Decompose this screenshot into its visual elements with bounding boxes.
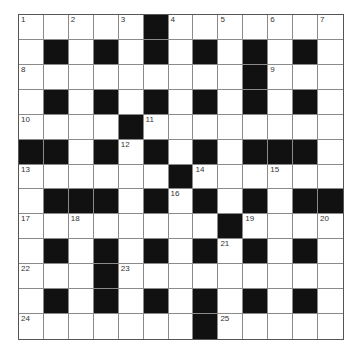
answer-cell[interactable]: 3 [119, 15, 144, 40]
answer-cell[interactable] [218, 90, 243, 115]
answer-cell[interactable] [268, 289, 293, 314]
answer-cell[interactable] [119, 289, 144, 314]
answer-cell[interactable] [169, 115, 194, 140]
answer-cell[interactable]: 7 [318, 15, 343, 40]
answer-cell[interactable]: 18 [69, 214, 94, 239]
answer-cell[interactable] [218, 140, 243, 165]
answer-cell[interactable] [169, 289, 194, 314]
answer-cell[interactable]: 16 [169, 189, 194, 214]
answer-cell[interactable] [69, 264, 94, 289]
answer-cell[interactable] [268, 115, 293, 140]
answer-cell[interactable] [69, 40, 94, 65]
answer-cell[interactable] [293, 115, 318, 140]
answer-cell[interactable]: 12 [119, 140, 144, 165]
answer-cell[interactable] [243, 165, 268, 190]
answer-cell[interactable] [268, 189, 293, 214]
answer-cell[interactable] [69, 65, 94, 90]
answer-cell[interactable]: 20 [318, 214, 343, 239]
answer-cell[interactable]: 14 [193, 165, 218, 190]
answer-cell[interactable] [94, 115, 119, 140]
answer-cell[interactable]: 8 [19, 65, 44, 90]
answer-cell[interactable] [318, 65, 343, 90]
answer-cell[interactable] [318, 40, 343, 65]
answer-cell[interactable] [144, 165, 169, 190]
answer-cell[interactable] [119, 314, 144, 339]
answer-cell[interactable] [268, 90, 293, 115]
answer-cell[interactable]: 11 [144, 115, 169, 140]
answer-cell[interactable] [218, 264, 243, 289]
answer-cell[interactable]: 5 [218, 15, 243, 40]
answer-cell[interactable] [44, 165, 69, 190]
answer-cell[interactable] [318, 314, 343, 339]
answer-cell[interactable] [243, 15, 268, 40]
answer-cell[interactable] [44, 115, 69, 140]
answer-cell[interactable] [268, 214, 293, 239]
answer-cell[interactable] [19, 90, 44, 115]
answer-cell[interactable]: 24 [19, 314, 44, 339]
answer-cell[interactable] [119, 214, 144, 239]
answer-cell[interactable] [293, 314, 318, 339]
answer-cell[interactable] [169, 214, 194, 239]
answer-cell[interactable] [44, 264, 69, 289]
answer-cell[interactable] [218, 65, 243, 90]
answer-cell[interactable]: 6 [268, 15, 293, 40]
answer-cell[interactable] [169, 239, 194, 264]
answer-cell[interactable] [69, 289, 94, 314]
answer-cell[interactable] [318, 289, 343, 314]
answer-cell[interactable]: 17 [19, 214, 44, 239]
answer-cell[interactable] [169, 140, 194, 165]
answer-cell[interactable] [293, 165, 318, 190]
answer-cell[interactable] [69, 90, 94, 115]
answer-cell[interactable] [69, 314, 94, 339]
answer-cell[interactable] [94, 15, 119, 40]
answer-cell[interactable] [144, 264, 169, 289]
answer-cell[interactable] [243, 115, 268, 140]
answer-cell[interactable] [169, 40, 194, 65]
answer-cell[interactable] [69, 115, 94, 140]
answer-cell[interactable] [318, 115, 343, 140]
answer-cell[interactable]: 15 [268, 165, 293, 190]
answer-cell[interactable] [193, 15, 218, 40]
answer-cell[interactable] [144, 214, 169, 239]
answer-cell[interactable] [19, 189, 44, 214]
answer-cell[interactable] [119, 90, 144, 115]
answer-cell[interactable] [293, 65, 318, 90]
answer-cell[interactable] [69, 239, 94, 264]
answer-cell[interactable] [218, 115, 243, 140]
answer-cell[interactable] [44, 65, 69, 90]
answer-cell[interactable] [94, 214, 119, 239]
answer-cell[interactable] [169, 65, 194, 90]
answer-cell[interactable]: 23 [119, 264, 144, 289]
answer-cell[interactable] [243, 264, 268, 289]
answer-cell[interactable]: 4 [169, 15, 194, 40]
answer-cell[interactable] [169, 90, 194, 115]
answer-cell[interactable] [318, 264, 343, 289]
answer-cell[interactable] [318, 239, 343, 264]
answer-cell[interactable] [193, 115, 218, 140]
answer-cell[interactable] [293, 214, 318, 239]
answer-cell[interactable] [169, 264, 194, 289]
answer-cell[interactable]: 22 [19, 264, 44, 289]
answer-cell[interactable]: 2 [69, 15, 94, 40]
answer-cell[interactable] [69, 140, 94, 165]
answer-cell[interactable]: 9 [268, 65, 293, 90]
answer-cell[interactable] [268, 264, 293, 289]
answer-cell[interactable] [318, 165, 343, 190]
answer-cell[interactable]: 25 [218, 314, 243, 339]
answer-cell[interactable]: 10 [19, 115, 44, 140]
answer-cell[interactable] [218, 40, 243, 65]
answer-cell[interactable] [193, 214, 218, 239]
answer-cell[interactable] [218, 165, 243, 190]
answer-cell[interactable]: 13 [19, 165, 44, 190]
answer-cell[interactable] [268, 239, 293, 264]
answer-cell[interactable] [119, 239, 144, 264]
answer-cell[interactable]: 19 [243, 214, 268, 239]
answer-cell[interactable] [293, 264, 318, 289]
answer-cell[interactable] [318, 90, 343, 115]
answer-cell[interactable] [94, 314, 119, 339]
answer-cell[interactable] [94, 65, 119, 90]
answer-cell[interactable] [44, 15, 69, 40]
answer-cell[interactable] [193, 65, 218, 90]
answer-cell[interactable] [119, 189, 144, 214]
answer-cell[interactable] [69, 165, 94, 190]
